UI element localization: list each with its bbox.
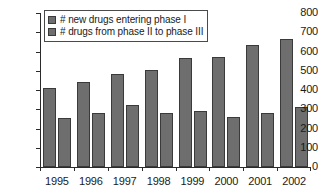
- x-axis-tick: [243, 167, 244, 171]
- bar: [77, 82, 90, 167]
- y-axis-line: [40, 13, 41, 168]
- bar: [194, 111, 207, 167]
- bar: [126, 105, 139, 167]
- y-axis-tick: [36, 32, 40, 33]
- bar: [179, 58, 192, 167]
- y-axis-label: 500: [284, 65, 318, 76]
- y-axis-label: 0: [284, 161, 318, 172]
- x-axis-tick: [277, 167, 278, 171]
- bar: [58, 118, 71, 167]
- y-axis-tick: [36, 90, 40, 91]
- x-axis-tick: [40, 167, 41, 171]
- y-axis-tick: [36, 71, 40, 72]
- y-axis-label: 800: [284, 7, 318, 18]
- bar: [145, 70, 158, 167]
- y-axis-label: 700: [284, 26, 318, 37]
- bar: [212, 57, 225, 167]
- bar-group: [212, 13, 240, 167]
- legend-item-phase-2-to-3: # drugs from phase II to phase III: [48, 26, 203, 37]
- chart-legend: # new drugs entering phase I # drugs fro…: [44, 10, 208, 42]
- legend-swatch-icon: [48, 16, 56, 24]
- x-axis-tick: [142, 167, 143, 171]
- y-axis-label: 300: [284, 103, 318, 114]
- x-axis-label: 2002: [274, 175, 314, 187]
- y-axis-tick: [36, 148, 40, 149]
- y-axis-label: 100: [284, 142, 318, 153]
- bar: [295, 107, 308, 167]
- x-axis-tick: [74, 167, 75, 171]
- bar: [160, 113, 173, 167]
- legend-swatch-icon: [48, 28, 56, 36]
- bar-chart: 19951996199719981999200020012002 8007006…: [0, 0, 318, 190]
- y-axis-tick: [36, 129, 40, 130]
- y-axis-tick: [36, 109, 40, 110]
- y-axis-label: 200: [284, 123, 318, 134]
- legend-label: # new drugs entering phase I: [60, 15, 186, 25]
- x-axis-tick: [108, 167, 109, 171]
- bar: [227, 117, 240, 167]
- y-axis-tick: [36, 13, 40, 14]
- y-axis-tick: [36, 52, 40, 53]
- bar: [92, 113, 105, 167]
- bar: [246, 45, 259, 167]
- legend-label: # drugs from phase II to phase III: [60, 27, 203, 37]
- legend-item-phase-1: # new drugs entering phase I: [48, 14, 203, 25]
- bar-group: [246, 13, 274, 167]
- y-axis-label: 400: [284, 84, 318, 95]
- bar: [43, 88, 56, 167]
- bar: [261, 113, 274, 167]
- x-axis-tick: [209, 167, 210, 171]
- x-axis-tick: [176, 167, 177, 171]
- bar: [111, 74, 124, 167]
- y-axis-label: 600: [284, 46, 318, 57]
